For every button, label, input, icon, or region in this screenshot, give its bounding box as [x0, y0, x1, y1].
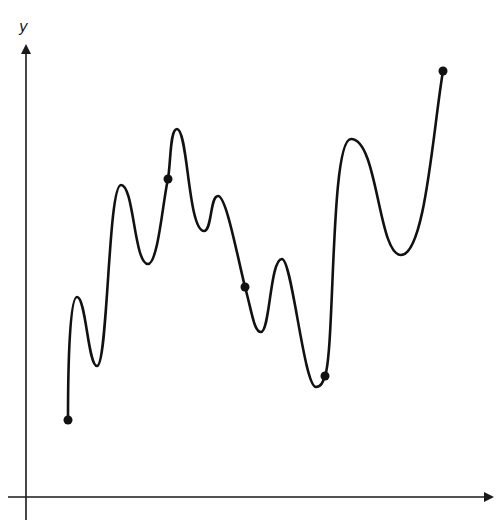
function-curve	[68, 71, 443, 420]
marked-point-5	[439, 67, 448, 76]
y-axis-label: y	[19, 18, 28, 36]
diagram-canvas: y	[0, 0, 499, 524]
marked-point-3	[241, 283, 250, 292]
marked-point-4	[321, 372, 330, 381]
marked-point-2	[164, 175, 173, 184]
marked-point-1	[64, 416, 73, 425]
graph-svg	[0, 0, 499, 524]
